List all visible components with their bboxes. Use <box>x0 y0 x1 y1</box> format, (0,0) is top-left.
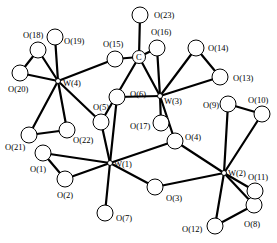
atom-w4 <box>56 79 61 84</box>
bond-w2-o10 <box>224 114 262 173</box>
atom-o20 <box>12 65 28 81</box>
bond-w2-o3 <box>155 173 224 187</box>
atom-label-w4: W(4) <box>63 78 81 88</box>
atom-label-o14: O(14) <box>208 43 228 53</box>
atom-label-o3: O(3) <box>166 193 182 203</box>
atom-o10 <box>254 106 270 122</box>
atom-label-w2: W(2) <box>228 168 246 178</box>
atom-o11 <box>247 183 263 199</box>
atom-label-o17: O(17) <box>130 121 150 131</box>
atom-o9 <box>220 96 236 112</box>
atom-o16 <box>149 40 165 56</box>
atom-label-c: C <box>136 52 142 62</box>
atom-w1 <box>108 161 113 166</box>
atom-label-w3: W(3) <box>164 96 182 106</box>
atom-o18 <box>30 42 46 58</box>
atom-o21 <box>21 127 37 143</box>
atom-o4 <box>167 133 183 149</box>
atom-o3 <box>147 179 163 195</box>
atom-o13 <box>212 69 228 85</box>
atom-label-o4: O(4) <box>185 132 201 142</box>
atom-label-o15: O(15) <box>103 39 123 49</box>
atom-o17 <box>153 115 169 131</box>
atom-label-o19: O(19) <box>64 36 84 46</box>
atom-label-o23: O(23) <box>154 10 174 20</box>
atom-label-o7: O(7) <box>116 213 132 223</box>
atom-o15 <box>107 51 123 67</box>
atom-label-o6: O(6) <box>130 89 146 99</box>
bond-w2-o9 <box>224 104 228 173</box>
atom-o7 <box>97 205 113 221</box>
molecular-structure-diagram: W(1)W(2)W(3)W(4)CO(1)O(2)O(3)O(4)O(5)O(6… <box>0 0 277 243</box>
atom-label-o18: O(18) <box>23 30 43 40</box>
atom-o2 <box>57 171 73 187</box>
atom-label-o12: O(12) <box>182 224 202 234</box>
atom-w3 <box>158 94 163 99</box>
atom-label-o2: O(2) <box>57 190 73 200</box>
atom-label-o9: O(9) <box>203 100 219 110</box>
atom-o5 <box>93 114 109 130</box>
labels-layer: W(1)W(2)W(3)W(4)CO(1)O(2)O(3)O(4)O(5)O(6… <box>5 10 268 234</box>
atom-label-o8: O(8) <box>244 219 260 229</box>
atom-label-o20: O(20) <box>8 84 28 94</box>
atom-label-w1: W(1) <box>114 159 132 169</box>
atom-label-o13: O(13) <box>233 73 253 83</box>
atom-label-o22: O(22) <box>73 135 93 145</box>
atom-o12 <box>207 218 223 234</box>
atom-label-o10: O(10) <box>248 95 268 105</box>
atom-label-o16: O(16) <box>151 27 171 37</box>
bond-w3-o13 <box>160 77 220 96</box>
bond-w3-o14 <box>160 48 196 96</box>
atom-label-o11: O(11) <box>248 172 268 182</box>
atom-label-o21: O(21) <box>5 142 25 152</box>
atom-o23 <box>132 7 148 23</box>
atom-label-o5: O(5) <box>93 102 109 112</box>
bond-w4-o21 <box>29 81 58 135</box>
atom-o1 <box>35 145 51 161</box>
atom-o19 <box>47 29 63 45</box>
atom-o14 <box>188 40 204 56</box>
atom-label-o1: O(1) <box>30 164 46 174</box>
atom-w2 <box>222 171 227 176</box>
bond-w2-o4 <box>175 141 224 173</box>
atom-o6 <box>109 89 125 105</box>
bond-w1-o1 <box>43 153 110 163</box>
